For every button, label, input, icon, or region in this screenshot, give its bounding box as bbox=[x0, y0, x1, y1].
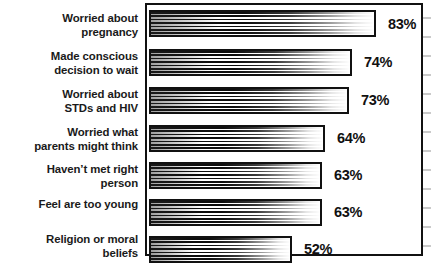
bar-value-label: 64% bbox=[337, 130, 365, 146]
bar-value-label: 63% bbox=[334, 167, 362, 183]
bar-value-label: 52% bbox=[304, 241, 332, 257]
category-label: Worried about STDs and HIV bbox=[0, 88, 138, 115]
plot-area: 83% 74% 73% 64% 63% 63% 52 bbox=[145, 3, 423, 256]
bar bbox=[149, 87, 349, 114]
category-label: Religion or moral beliefs bbox=[0, 233, 138, 260]
bar-value-label: 63% bbox=[334, 204, 362, 220]
bar bbox=[149, 236, 292, 263]
bar-fill-shade bbox=[151, 51, 211, 74]
bar-fill-shade bbox=[151, 164, 202, 187]
bar-value-label: 73% bbox=[361, 92, 389, 108]
category-label: Haven’t met right person bbox=[0, 163, 138, 190]
category-label: Worried about pregnancy bbox=[0, 12, 138, 39]
bar-value-label: 83% bbox=[388, 16, 416, 32]
bar-fill-shade bbox=[151, 12, 218, 35]
bar bbox=[149, 199, 322, 226]
bar-fill-shade bbox=[151, 238, 193, 261]
bar-fill-shade bbox=[151, 201, 202, 224]
page-edge-scan-artifact bbox=[423, 0, 431, 262]
category-label: Made conscious decision to wait bbox=[0, 50, 138, 77]
category-label: Worried what parents might think bbox=[0, 126, 138, 153]
bar bbox=[149, 10, 376, 37]
bar bbox=[149, 49, 352, 76]
bar-fill-shade bbox=[151, 89, 210, 112]
bar-value-label: 74% bbox=[364, 54, 392, 70]
category-label: Feel are too young bbox=[0, 198, 138, 212]
bar-fill-shade bbox=[151, 127, 203, 150]
bar bbox=[149, 162, 322, 189]
category-label-column: Worried about pregnancy Made conscious d… bbox=[0, 0, 138, 262]
bar bbox=[149, 125, 325, 152]
